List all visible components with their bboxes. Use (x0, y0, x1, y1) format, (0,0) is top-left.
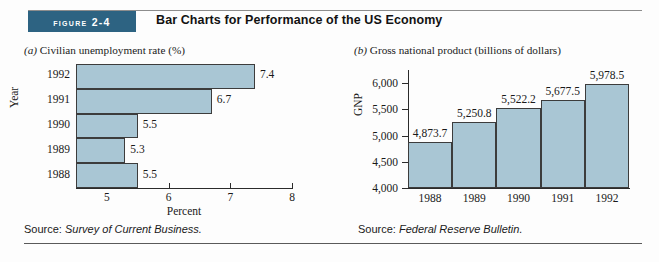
chart-a-bar-row: 19905.5 (76, 114, 138, 139)
chart-a-bar-row: 19885.5 (76, 163, 138, 188)
chart-a-value-label: 5.3 (130, 143, 144, 155)
chart-b-value-label: 5,250.8 (457, 107, 492, 119)
chart-a-tick-label: 7 (227, 191, 233, 203)
chart-a-category-label: 1990 (47, 118, 70, 130)
panel-a-enumerator: (a) (24, 44, 37, 56)
chart-a-value-label: 5.5 (143, 168, 157, 180)
chart-a-tick-label: 5 (104, 191, 110, 203)
chart-b-category-label: 1991 (551, 192, 574, 204)
chart-a-value-label: 7.4 (260, 68, 274, 80)
panel-a-caption-text: Civilian unemployment rate (%) (37, 44, 185, 56)
chart-b-category-label: 1990 (507, 192, 530, 204)
chart-b-bar (452, 122, 496, 188)
chart-b-category-label: 1988 (419, 192, 442, 204)
source-panel-a: Source: Survey of Current Business. (24, 223, 202, 235)
chart-a-bar (76, 64, 255, 89)
figure-title: Bar Charts for Performance of the US Eco… (156, 13, 442, 27)
chart-b-bar (585, 84, 629, 188)
source-b-prefix: Source: (358, 223, 399, 235)
panel-b-caption: (b) Gross national product (billions of … (354, 44, 561, 56)
chart-b-x-axis-line (408, 188, 630, 189)
chart-b-tick-label: 5,000 (372, 130, 398, 142)
chart-b-category-label: 1989 (463, 192, 486, 204)
chart-gnp-bar: GNP 4,0004,5005,0005,5006,000 4,873.7198… (346, 60, 651, 215)
chart-a-bar-row: 19895.3 (76, 138, 125, 163)
figure-header: Figure 2-4 Bar Charts for Performance of… (0, 0, 659, 44)
chart-a-value-label: 5.5 (143, 118, 157, 130)
chart-a-bar-row: 19916.7 (76, 89, 212, 114)
chart-a-category-label: 1991 (47, 93, 70, 105)
chart-a-tick-label: 6 (166, 191, 172, 203)
footer-divider (24, 243, 642, 244)
panel-civilian-unemployment: (a) Civilian unemployment rate (%) Year … (14, 42, 334, 217)
panel-gross-national-product: (b) Gross national product (billions of … (346, 42, 651, 217)
chart-unemployment-bar: Year Percent 5678 19927.419916.719905.51… (14, 60, 334, 215)
chart-b-value-label: 5,677.5 (545, 85, 580, 97)
panel-b-enumerator: (b) (354, 44, 367, 56)
chart-b-y-axis-title: GNP (352, 93, 364, 116)
chart-a-category-label: 1989 (47, 143, 70, 155)
source-a-prefix: Source: (24, 223, 65, 235)
chart-a-y-axis-title: Year (8, 87, 20, 108)
chart-a-x-axis-title: Percent (167, 205, 201, 217)
chart-b-value-label: 4,873.7 (413, 127, 448, 139)
chart-b-tick (402, 109, 408, 110)
chart-b-tick-label: 4,000 (372, 182, 398, 194)
chart-b-tick (402, 83, 408, 84)
chart-a-x-axis-line (76, 188, 292, 189)
chart-b-category-label: 1992 (595, 192, 618, 204)
chart-a-bar (76, 138, 125, 163)
chart-b-tick (402, 188, 408, 189)
chart-a-bar (76, 114, 138, 139)
chart-b-tick-label: 4,500 (372, 156, 398, 168)
chart-a-value-label: 6.7 (217, 93, 231, 105)
chart-b-bar (408, 142, 452, 188)
chart-a-category-label: 1992 (47, 68, 70, 80)
panel-a-caption: (a) Civilian unemployment rate (%) (24, 44, 185, 56)
chart-a-bar (76, 163, 138, 188)
chart-a-category-label: 1988 (47, 168, 70, 180)
source-a-title: Survey of Current Business. (65, 223, 202, 235)
chart-a-tick (169, 183, 170, 189)
chart-a-tick (292, 183, 293, 189)
source-panel-b: Source: Federal Reserve Bulletin. (358, 223, 522, 235)
chart-a-tick (230, 183, 231, 189)
chart-a-bar (76, 89, 212, 114)
chart-b-tick-label: 5,500 (372, 103, 398, 115)
chart-a-tick-label: 8 (289, 191, 295, 203)
chart-b-bar (496, 108, 540, 188)
chart-b-tick-label: 6,000 (372, 77, 398, 89)
figure-number-label: Figure 2-4 (53, 16, 111, 28)
chart-b-value-label: 5,522.2 (501, 93, 536, 105)
source-b-title: Federal Reserve Bulletin. (399, 223, 523, 235)
figure-number-badge: Figure 2-4 (28, 11, 136, 32)
chart-b-bar (541, 100, 585, 188)
chart-a-bar-row: 19927.4 (76, 64, 255, 89)
chart-b-value-label: 5,978.5 (590, 69, 625, 81)
chart-b-tick (402, 136, 408, 137)
panel-b-caption-text: Gross national product (billions of doll… (367, 44, 561, 56)
